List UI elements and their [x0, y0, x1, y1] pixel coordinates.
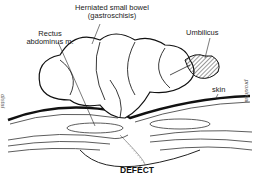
- defect-label: DEFECT: [120, 166, 154, 174]
- rectus-label-line2: abdominus m.: [22, 38, 78, 46]
- herniated-bowel-label-line2: (gastroschisis): [62, 12, 162, 20]
- skin-label: skin: [212, 86, 225, 94]
- herniated-bowel-label: Herniated small bowel (gastroschisis): [62, 4, 162, 20]
- distal-label: distal: [0, 94, 6, 108]
- gastroschisis-illustration: Herniated small bowel (gastroschisis) Re…: [0, 0, 261, 184]
- proximal-label: proximal: [244, 80, 250, 103]
- umbilicus-label: Umbilicus: [186, 29, 219, 37]
- rectus-label: Rectus abdominus m.: [22, 30, 78, 46]
